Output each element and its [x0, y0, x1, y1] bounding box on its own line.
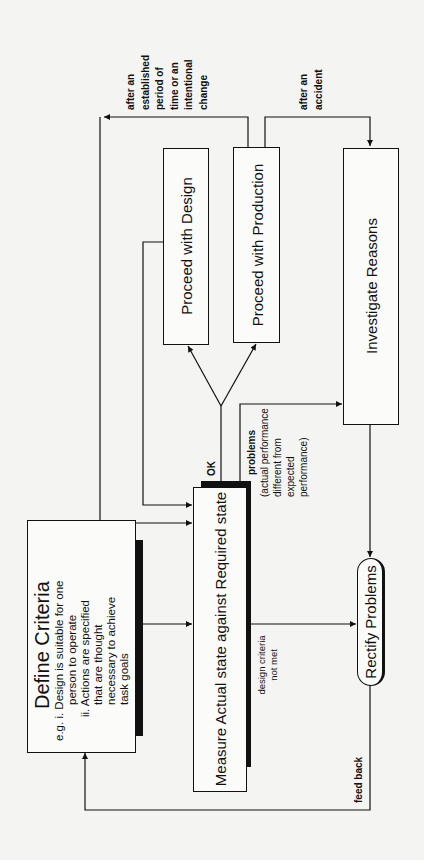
- criteria-not-met-label-group: design criteria not met: [256, 625, 286, 705]
- proceed-with-production-label: Proceed with Production: [246, 147, 268, 344]
- investigate-reasons-label: Investigate Reasons: [360, 148, 382, 425]
- measure-label: Measure Actual state against Required st…: [209, 487, 231, 792]
- accident-2: accident: [312, 50, 327, 110]
- define-criteria-content: Define Criteria e.g. i. Design is suitab…: [27, 520, 136, 753]
- problems-detail-2: different from: [271, 365, 284, 497]
- problems-detail-3: expected: [284, 365, 297, 497]
- criteria-not-met-2: not met: [268, 625, 280, 705]
- rectify-problems-label: Rectify Problems: [360, 560, 380, 684]
- criteria-line-1: e.g. i. Design is suitable for one: [53, 520, 66, 741]
- accident-label-group: after an accident: [297, 50, 327, 110]
- proceed-with-design-label: Proceed with Design: [175, 148, 197, 345]
- criteria-line-2: person to operate: [66, 520, 79, 741]
- define-criteria-title: Define Criteria: [31, 520, 53, 741]
- accident-1: after an: [297, 50, 312, 110]
- problems-detail-4: performance): [297, 365, 310, 497]
- established-3: period of: [153, 30, 168, 110]
- established-4: time or an: [168, 30, 183, 110]
- accident-arrow: [265, 117, 370, 147]
- criteria-line-4: that are thought: [92, 520, 105, 741]
- feedback-label: feed back: [352, 757, 365, 803]
- ok-to-design-arrow: [188, 346, 221, 406]
- established-6: change: [197, 30, 212, 110]
- established-1: after an: [124, 30, 139, 110]
- established-2: established: [139, 30, 154, 110]
- criteria-line-3: ii. Actions are specified: [79, 520, 92, 741]
- criteria-line-5: necessary to achieve: [105, 520, 118, 741]
- established-period-arrow: [104, 117, 248, 147]
- criteria-line-6: task goals: [118, 520, 131, 741]
- problems-label: problems: [245, 365, 258, 475]
- established-5: intentional: [182, 30, 197, 110]
- established-label-group: after an established period of time or a…: [124, 30, 214, 110]
- problems-label-group: problems (actual performance different f…: [245, 365, 315, 475]
- problems-detail-1: (actual performance: [258, 365, 271, 497]
- criteria-not-met-1: design criteria: [256, 625, 268, 705]
- ok-label: OK: [205, 461, 218, 476]
